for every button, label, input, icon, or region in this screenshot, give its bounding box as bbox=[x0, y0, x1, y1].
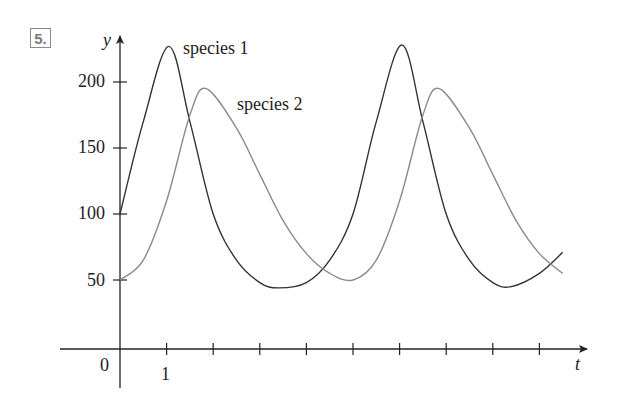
y-tick-label-150: 150 bbox=[65, 137, 105, 158]
y-tick-label-200: 200 bbox=[65, 71, 105, 92]
x-tick-label-0: 0 bbox=[100, 355, 109, 376]
series-label-species-1: species 1 bbox=[183, 38, 248, 59]
series-lines bbox=[120, 45, 563, 288]
series-label-species-2: species 2 bbox=[237, 94, 302, 115]
x-tick-label-1: 1 bbox=[161, 364, 170, 385]
series-line-species-2 bbox=[120, 88, 563, 280]
y-tick-label-50: 50 bbox=[65, 270, 105, 291]
series-line-species-1 bbox=[120, 45, 563, 288]
y-tick-label-100: 100 bbox=[65, 203, 105, 224]
y-axis-label: y bbox=[103, 30, 111, 51]
problem-number-badge: 5. bbox=[30, 28, 51, 48]
x-axis-label: t bbox=[575, 354, 580, 375]
